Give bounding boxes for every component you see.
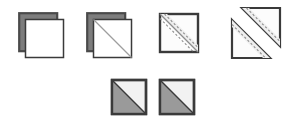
figure-step-6-finished-unit-b bbox=[158, 78, 198, 116]
figure-step-5-finished-unit-a bbox=[110, 78, 150, 116]
diagram-canvas bbox=[0, 0, 298, 116]
figure-step-3-stitch-and-cut bbox=[158, 12, 204, 58]
figure-step-2-drawn-diagonal bbox=[86, 12, 134, 58]
figure-step-4-separated-triangles bbox=[228, 6, 286, 62]
front-square bbox=[26, 20, 64, 58]
figure-step-1-stacked-squares bbox=[18, 12, 66, 58]
